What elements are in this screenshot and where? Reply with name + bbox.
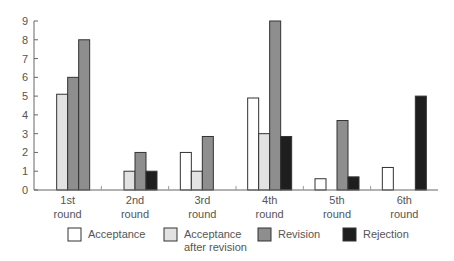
bar-acceptance: [315, 179, 326, 190]
x-tick-label: 5th: [329, 194, 344, 206]
legend: AcceptanceAcceptanceafter revisionRevisi…: [68, 228, 409, 253]
y-tick-label: 4: [22, 109, 28, 121]
x-tick-label: round: [188, 208, 216, 220]
y-tick-label: 1: [22, 165, 28, 177]
legend-label: Acceptance: [88, 228, 145, 240]
y-tick-label: 8: [22, 34, 28, 46]
x-tick-label: 2nd: [126, 194, 144, 206]
legend-swatch: [258, 228, 271, 241]
x-tick-label: round: [323, 208, 351, 220]
x-tick-label: round: [54, 208, 82, 220]
bar-rejection: [281, 136, 292, 190]
legend-label: after revision: [184, 241, 247, 253]
y-tick-label: 2: [22, 146, 28, 158]
bar-rejection: [415, 96, 426, 190]
legend-label: Acceptance: [184, 228, 241, 240]
x-tick-label: 4th: [262, 194, 277, 206]
y-tick-label: 6: [22, 71, 28, 83]
x-tick-label: 1st: [60, 194, 75, 206]
bar-revision: [68, 77, 79, 190]
bar-revision: [337, 121, 348, 190]
x-tick-label: 6th: [397, 194, 412, 206]
y-tick-label: 3: [22, 128, 28, 140]
bar-rejection: [348, 177, 359, 190]
x-axis: 1stround2ndround3rdround4thround5thround…: [34, 186, 438, 220]
legend-swatch: [164, 228, 177, 241]
bar-acceptance: [180, 152, 191, 190]
bar-rejection: [146, 171, 157, 190]
legend-label: Rejection: [363, 228, 409, 240]
y-tick-label: 7: [22, 53, 28, 65]
bar-acceptance-after-revision: [57, 94, 68, 190]
y-axis: 0123456789: [22, 15, 38, 196]
legend-swatch: [68, 228, 81, 241]
bar-revision: [270, 21, 281, 190]
bar-rejection: [79, 40, 90, 190]
x-tick-label: 3rd: [194, 194, 210, 206]
bars: [57, 21, 427, 190]
y-tick-label: 9: [22, 15, 28, 27]
legend-swatch: [343, 228, 356, 241]
x-tick-label: round: [256, 208, 284, 220]
legend-label: Revision: [278, 228, 320, 240]
bar-acceptance-after-revision: [259, 134, 270, 190]
y-tick-label: 0: [22, 184, 28, 196]
bar-acceptance: [382, 167, 393, 190]
bar-acceptance-after-revision: [124, 171, 135, 190]
bar-acceptance: [248, 98, 259, 190]
x-tick-label: round: [121, 208, 149, 220]
bar-revision: [135, 152, 146, 190]
y-tick-label: 5: [22, 90, 28, 102]
bar-acceptance-after-revision: [191, 171, 202, 190]
bar-revision: [202, 136, 213, 190]
x-tick-label: round: [390, 208, 418, 220]
bar-chart: 0123456789 1stround2ndround3rdround4thro…: [0, 0, 454, 261]
